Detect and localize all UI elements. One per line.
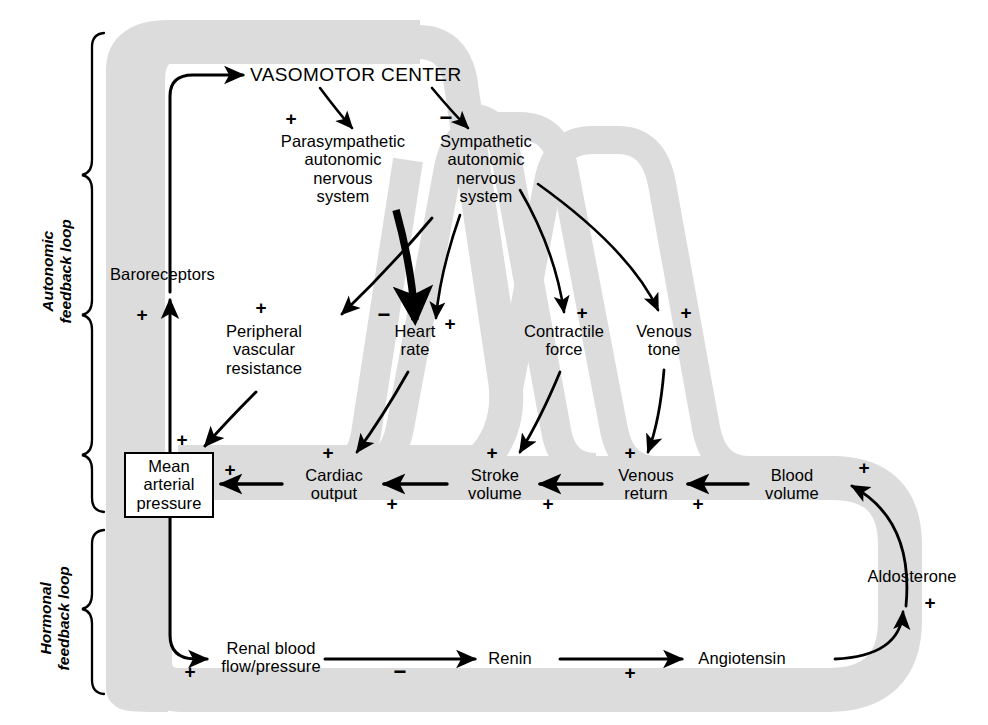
loop-brackets [0, 0, 988, 725]
node-vasomotor-center: VASOMOTOR CENTER [250, 64, 462, 85]
node-sympathetic: Sympathetic autonomic nervous system [428, 132, 544, 206]
sign-sympathetic-to-peripheral-resistance: + [253, 298, 269, 317]
sign-parasympathetic-to-heart-rate: − [376, 304, 392, 326]
node-venous-return: Venous return [603, 466, 689, 503]
sign-contractile-force-to-stroke-volume: + [484, 443, 500, 462]
label-autonomic-feedback-loop: Autonomic feedback loop [39, 186, 76, 356]
node-blood-volume: Blood volume [750, 466, 834, 503]
sign-stroke-volume-to-cardiac-output: + [384, 494, 400, 513]
figure-canvas: VASOMOTOR CENTER Parasympathetic autonom… [0, 0, 988, 725]
sign-venous-tone-to-venous-return: + [622, 443, 638, 462]
sign-vasomotor-to-sympathetic: − [438, 107, 454, 129]
sign-peripheral-resistance-to-map: + [174, 430, 190, 449]
node-mean-arterial-pressure: Mean arterial pressure [124, 452, 214, 518]
node-parasympathetic: Parasympathetic autonomic nervous system [272, 132, 414, 206]
node-baroreceptors: Baroreceptors [110, 265, 240, 283]
node-aldosterone: Aldosterone [848, 567, 976, 585]
label-hormonal-feedback-loop: Hormonal feedback loop [37, 533, 74, 703]
node-angiotensin: Angiotensin [686, 649, 798, 667]
sign-venous-return-to-stroke-volume: + [540, 494, 556, 513]
node-heart-rate: Heart rate [381, 322, 449, 359]
sign-renin-to-angiotensin: + [622, 663, 638, 682]
node-cardiac-output: Cardiac output [284, 466, 384, 503]
node-renin: Renin [480, 649, 540, 667]
sign-heart-rate-to-cardiac-output: + [320, 443, 336, 462]
sign-map-to-renal-blood-flow: + [182, 662, 198, 681]
sign-renal-blood-flow-to-renin: − [392, 661, 408, 683]
sign-blood-volume-to-venous-return: + [690, 494, 706, 513]
node-stroke-volume: Stroke volume [449, 466, 541, 503]
sign-sympathetic-to-heart-rate: + [442, 314, 458, 333]
node-contractile-force: Contractile force [512, 322, 616, 359]
sign-aldosterone-to-blood-volume: + [856, 458, 872, 477]
node-peripheral-vascular-resistance: Peripheral vascular resistance [205, 322, 323, 377]
sign-sympathetic-to-contractile-force: + [574, 303, 590, 322]
sign-cardiac-output-to-map: + [222, 460, 238, 479]
sign-sympathetic-to-venous-tone: + [678, 303, 694, 322]
node-venous-tone: Venous tone [626, 322, 702, 359]
sign-vasomotor-to-parasympathetic: + [283, 109, 299, 128]
sign-baroreceptors-input: + [134, 305, 150, 324]
node-renal-blood-flow-pressure: Renal blood flow/pressure [213, 639, 329, 676]
sign-angiotensin-to-aldosterone: + [922, 593, 938, 612]
